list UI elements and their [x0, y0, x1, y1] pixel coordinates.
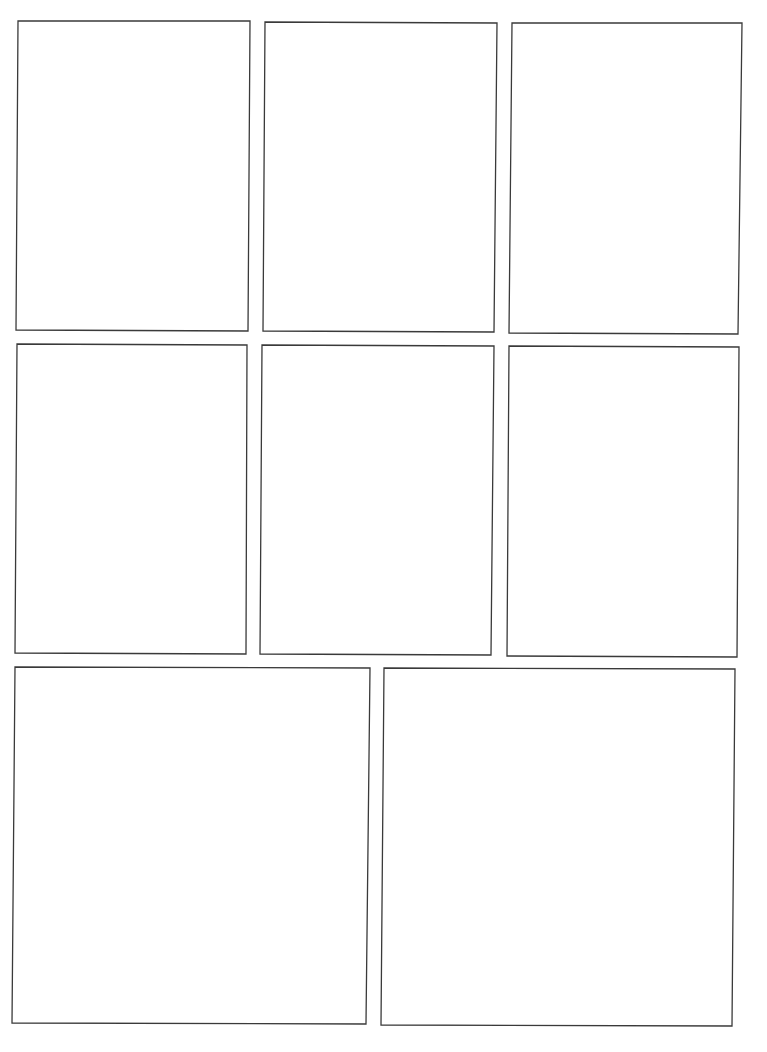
panel-7 — [12, 667, 370, 1024]
panel-2 — [263, 22, 497, 332]
panel-5 — [260, 345, 494, 655]
panel-8 — [381, 668, 735, 1026]
panel-layout — [0, 0, 767, 1052]
panel-4 — [15, 344, 247, 654]
comic-page — [0, 0, 767, 1052]
panel-3 — [509, 23, 742, 334]
panel-6 — [507, 346, 739, 657]
panel-1 — [16, 21, 250, 331]
